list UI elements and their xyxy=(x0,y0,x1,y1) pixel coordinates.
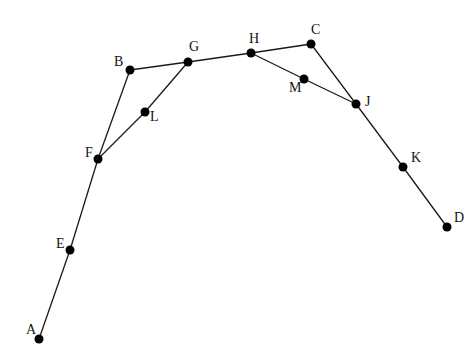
node-f xyxy=(94,155,103,164)
edges-layer xyxy=(39,44,447,339)
nodes-layer xyxy=(35,40,452,344)
edge-b-g xyxy=(130,62,188,70)
edge-j-k xyxy=(356,104,403,167)
edge-e-f xyxy=(70,159,98,250)
edge-m-j xyxy=(304,79,356,104)
node-label-d: D xyxy=(454,210,464,225)
node-label-a: A xyxy=(26,322,37,337)
node-label-b: B xyxy=(114,54,123,69)
node-l xyxy=(141,108,150,117)
node-j xyxy=(352,100,361,109)
node-label-j: J xyxy=(365,94,371,109)
edge-h-m xyxy=(251,53,304,79)
edge-a-e xyxy=(39,250,70,339)
node-label-m: M xyxy=(289,80,302,95)
node-g xyxy=(184,58,193,67)
edge-k-d xyxy=(403,167,447,227)
edge-l-g xyxy=(145,62,188,112)
node-label-l: L xyxy=(150,109,159,124)
node-b xyxy=(126,66,135,75)
node-k xyxy=(399,163,408,172)
edge-f-b xyxy=(98,70,130,159)
node-label-k: K xyxy=(411,150,421,165)
graph-diagram: AEFBLGHCMJKD xyxy=(0,0,472,362)
edge-f-l xyxy=(98,112,145,159)
node-label-g: G xyxy=(189,39,199,54)
node-d xyxy=(443,223,452,232)
edge-g-h xyxy=(188,53,251,62)
edge-h-c xyxy=(251,44,311,53)
node-label-f: F xyxy=(85,145,93,160)
node-label-c: C xyxy=(311,22,320,37)
edge-c-j xyxy=(311,44,356,104)
node-label-e: E xyxy=(56,236,65,251)
node-label-h: H xyxy=(249,31,259,46)
node-h xyxy=(247,49,256,58)
node-e xyxy=(66,246,75,255)
node-c xyxy=(307,40,316,49)
